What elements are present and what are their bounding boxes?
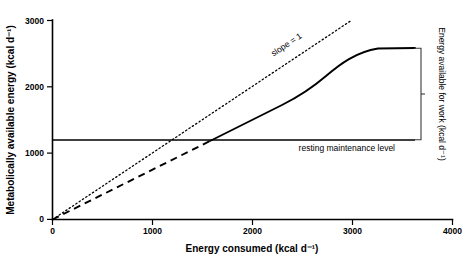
x-tick-label-3000: 3000 <box>343 226 362 236</box>
x-tick-label-1000: 1000 <box>143 226 162 236</box>
available-energy-curve-solid <box>210 48 415 141</box>
y-tick-label-1000: 1000 <box>25 148 44 158</box>
work-energy-bracket: Energy available for work (kcal d⁻¹) <box>414 27 447 161</box>
bracket-outline <box>414 48 421 140</box>
slope-label: slope = 1 <box>269 31 304 59</box>
slope-one-line <box>53 20 353 220</box>
energy-chart-svg: 3000 2000 1000 0 Metabolically available… <box>0 0 475 263</box>
y-tick-label-3000: 3000 <box>25 16 44 26</box>
y-tick-label-0: 0 <box>39 214 44 224</box>
x-axis: 0 1000 2000 3000 4000 Energy consumed (k… <box>50 220 462 255</box>
x-tick-label-2000: 2000 <box>243 226 262 236</box>
resting-maintenance-label: resting maintenance level <box>299 143 396 153</box>
chart-figure: 3000 2000 1000 0 Metabolically available… <box>0 0 475 263</box>
x-tick-label-0: 0 <box>50 226 55 236</box>
y-axis-title: Metabolically available energy (kcal d⁻¹… <box>5 25 16 215</box>
available-energy-curve-dashed <box>53 140 213 220</box>
y-tick-label-2000: 2000 <box>25 82 44 92</box>
work-energy-bracket-label: Energy available for work (kcal d⁻¹) <box>437 27 447 161</box>
y-axis: 3000 2000 1000 0 Metabolically available… <box>5 16 53 225</box>
x-axis-title: Energy consumed (kcal d⁻¹) <box>186 243 319 254</box>
x-tick-label-4000: 4000 <box>443 226 462 236</box>
